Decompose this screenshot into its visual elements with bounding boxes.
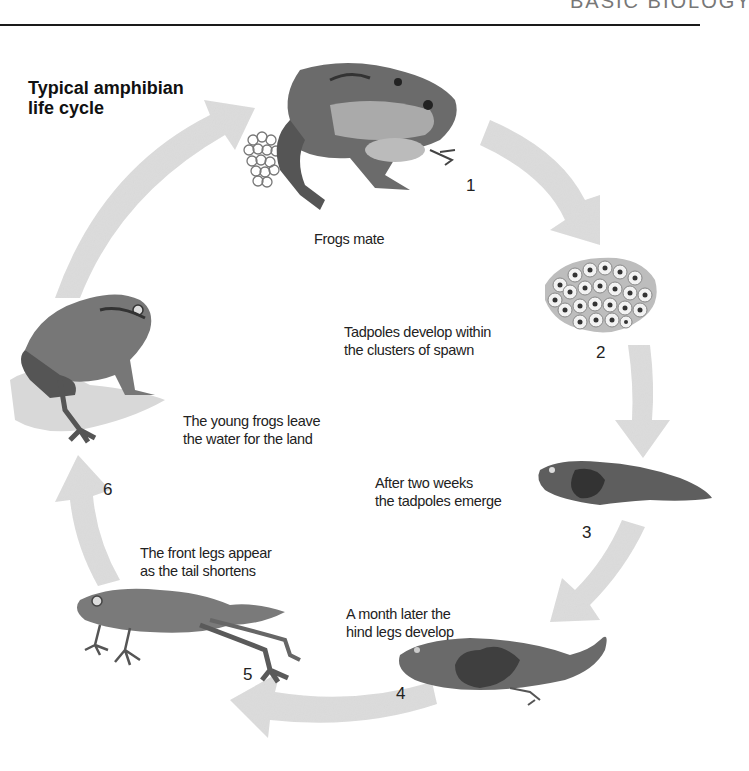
stage-6-number: 6: [103, 480, 112, 500]
stage-5-caption: The front legs appear as the tail shorte…: [140, 544, 272, 580]
stage-4-caption-line-2: hind legs develop: [346, 623, 454, 641]
illustrations: [0, 0, 749, 771]
stage-2-caption-line-1: Tadpoles develop within: [344, 323, 491, 341]
froglet-icon: [77, 589, 300, 682]
stage-5-caption-line-2: as the tail shortens: [140, 562, 272, 580]
stage-3-caption-line-1: After two weeks: [375, 474, 502, 492]
frogspawn-icon: [545, 258, 657, 333]
stage-5-number: 5: [243, 665, 252, 685]
tadpole-hind-legs-icon: [399, 637, 607, 705]
stage-5-caption-line-1: The front legs appear: [140, 544, 272, 562]
tadpole-icon: [538, 461, 712, 505]
stage-3-number: 3: [582, 523, 591, 543]
stage-3-caption-line-2: the tadpoles emerge: [375, 492, 502, 510]
stage-4-caption: A month later the hind legs develop: [346, 605, 454, 641]
stage-4-number: 4: [396, 684, 405, 704]
mating-frogs-icon: [244, 63, 457, 210]
stage-2-number: 2: [596, 343, 605, 363]
stage-3-caption: After two weeks the tadpoles emerge: [375, 474, 502, 510]
stage-1-number: 1: [466, 176, 475, 196]
stage-6-caption: The young frogs leave the water for the …: [183, 412, 320, 448]
young-frog-icon: [10, 294, 165, 442]
stage-2-caption: Tadpoles develop within the clusters of …: [344, 323, 491, 359]
stage-2-caption-line-2: the clusters of spawn: [344, 341, 491, 359]
stage-6-caption-line-1: The young frogs leave: [183, 412, 320, 430]
stage-6-caption-line-2: the water for the land: [183, 430, 320, 448]
stage-1-caption: Frogs mate: [314, 230, 384, 248]
stage-1-caption-line-1: Frogs mate: [314, 230, 384, 248]
stage-4-caption-line-1: A month later the: [346, 605, 454, 623]
